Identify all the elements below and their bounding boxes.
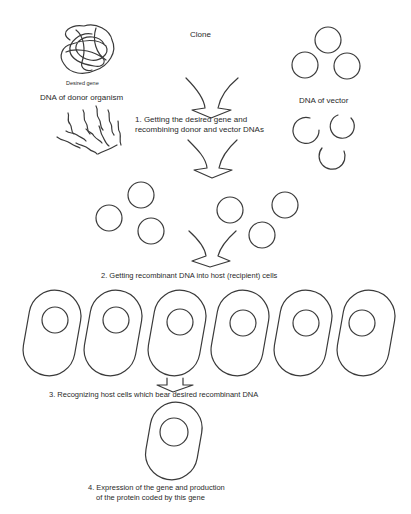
host-cells-icon — [19, 286, 399, 380]
arrow-3-icon — [189, 231, 236, 267]
arrow-2-icon — [188, 140, 237, 178]
step-4-label-line2: of the protein coded by this gene — [96, 493, 205, 502]
vector-plasmids-cut-icon — [293, 115, 354, 169]
step-4-label-line1: 4. Expression of the gene and production — [88, 483, 225, 492]
arrow-1-icon — [186, 78, 238, 118]
recombinant-plasmids-icon — [96, 182, 298, 248]
step-1-label-line1: 1. Getting the desired gene and — [135, 115, 247, 125]
vector-dna-label: DNA of vector — [299, 96, 348, 106]
step-1-label-line2: recombining donor and vector DNAs — [135, 125, 264, 135]
donor-dna-tangle-icon — [61, 25, 114, 73]
diagram-artwork — [0, 0, 411, 514]
diagram-title: Clone — [190, 30, 211, 40]
step-3-label: 3. Recognizing host cells which bear des… — [49, 390, 258, 399]
selected-cell-icon — [141, 398, 206, 484]
desired-gene-label: Desired gene — [66, 80, 99, 87]
cloning-diagram: Clone Desired gene DNA of donor organism… — [0, 0, 411, 514]
vector-plasmids-intact-icon — [292, 27, 360, 79]
donor-dna-fragments-icon — [57, 106, 121, 154]
step-2-label: 2. Getting recombinant DNA into host (re… — [101, 271, 277, 280]
donor-dna-label: DNA of donor organism — [40, 93, 123, 103]
